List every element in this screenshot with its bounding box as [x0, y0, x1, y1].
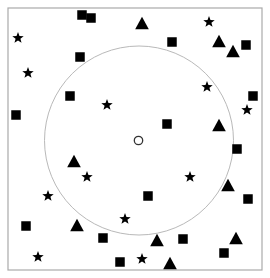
marker-square-5 [248, 91, 258, 101]
marker-square-4 [11, 110, 21, 120]
scatter-plot-canvas [0, 0, 270, 278]
marker-square-8 [143, 191, 153, 201]
marker-square-6 [162, 119, 172, 129]
marker-square-10 [98, 233, 108, 243]
marker-square-0 [77, 10, 87, 20]
scatter-plot-panel [0, 0, 270, 278]
marker-square-9 [21, 221, 31, 231]
marker-square-11 [178, 234, 188, 244]
marker-square-2 [75, 52, 85, 62]
marker-square-12 [243, 194, 253, 204]
marker-square-3 [65, 91, 75, 101]
center-point-marker [134, 136, 142, 144]
marker-square-1 [167, 37, 177, 47]
marker-square-13 [115, 257, 125, 267]
marker-square-15 [241, 40, 251, 50]
marker-square-14 [219, 248, 229, 258]
marker-square-7 [232, 144, 242, 154]
marker-square-16 [86, 13, 96, 23]
